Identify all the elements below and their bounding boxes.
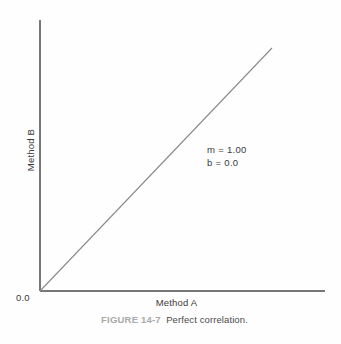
chart-svg [0, 0, 341, 310]
figure-caption: FIGURE 14-7 Perfect correlation. [0, 314, 341, 325]
figure-caption-text: Perfect correlation. [166, 314, 248, 325]
origin-tick-label: 0.0 [16, 292, 30, 303]
series-line-perfect-correlation [40, 48, 272, 291]
chart-plot-area [0, 0, 341, 310]
x-axis-title: Method A [0, 297, 341, 308]
y-axis-title: Method B [25, 129, 36, 171]
chart-annotation-group: m = 1.00 b = 0.0 [207, 144, 247, 169]
annotation-slope: m = 1.00 [207, 144, 247, 157]
figure-number: FIGURE 14-7 [101, 314, 161, 325]
figure-container: Method B Method A 0.0 m = 1.00 b = 0.0 F… [0, 0, 341, 344]
annotation-intercept: b = 0.0 [207, 157, 247, 170]
